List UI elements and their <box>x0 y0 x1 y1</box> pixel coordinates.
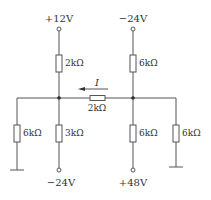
terminal-bottom-left <box>57 168 61 172</box>
resistor-label-bottom-right: 6kΩ <box>139 128 158 138</box>
resistor-bottom-far-right <box>173 125 179 142</box>
bus: 2kΩ <box>17 96 176 114</box>
arrow-left-icon <box>78 87 85 91</box>
source-label-top-right: −24V <box>119 13 148 24</box>
branch-bottom-left: 3kΩ −24V <box>47 98 84 188</box>
circuit-diagram: +12V 2kΩ −24V 6kΩ 2kΩ I 6kΩ <box>0 0 211 200</box>
resistor-bottom-left <box>56 125 62 142</box>
branch-bottom-far-right: 6kΩ <box>169 98 201 167</box>
resistor-label-bottom-left: 3kΩ <box>65 128 84 138</box>
resistor-label-top-left: 2kΩ <box>65 58 84 68</box>
resistor-top-right <box>130 55 136 72</box>
branch-top-right: −24V 6kΩ <box>119 13 158 98</box>
resistor-label-bottom-far-left: 6kΩ <box>23 128 42 138</box>
resistor-label-bottom-far-right: 6kΩ <box>182 128 201 138</box>
resistor-label-top-right: 6kΩ <box>139 58 158 68</box>
resistor-middle <box>90 96 105 101</box>
resistor-top-left <box>56 55 62 72</box>
terminal-top-left <box>57 27 61 31</box>
branch-top-left: +12V 2kΩ <box>45 13 84 98</box>
branch-bottom-right: 6kΩ +48V <box>119 98 158 188</box>
resistor-bottom-right <box>130 125 136 142</box>
source-label-bottom-left: −24V <box>47 177 76 188</box>
terminal-top-right <box>131 27 135 31</box>
current-arrow: I <box>78 77 108 91</box>
source-label-bottom-right: +48V <box>119 177 148 188</box>
current-label: I <box>94 77 100 88</box>
resistor-bottom-far-left <box>14 125 20 142</box>
branch-bottom-far-left: 6kΩ <box>10 98 42 170</box>
terminal-bottom-right <box>131 168 135 172</box>
source-label-top-left: +12V <box>45 13 74 24</box>
resistor-label-middle: 2kΩ <box>88 103 107 113</box>
